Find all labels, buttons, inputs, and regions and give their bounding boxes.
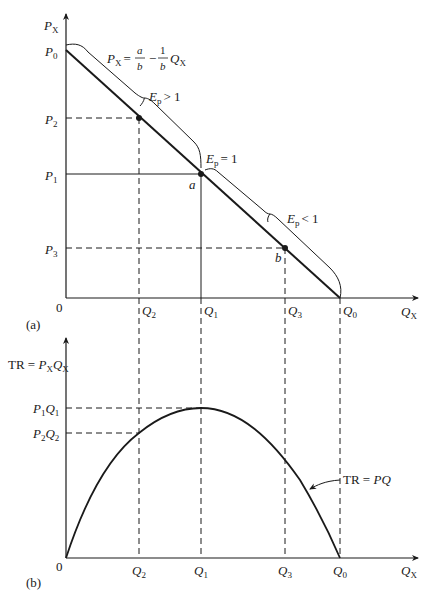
curve-pointer-arrow <box>310 480 340 489</box>
elasticity-label-unit: Ep= 1 <box>205 151 238 168</box>
elasticity-label-inelastic: Ep< 1 <box>286 211 319 228</box>
revenue-axis-label: TR = PXQX <box>8 357 69 374</box>
panel-b-label: (b) <box>26 575 41 590</box>
origin-label: 0 <box>56 300 63 315</box>
label-point-b: b <box>275 250 282 265</box>
tick-p2q2: P2Q2 <box>32 426 59 443</box>
curve-label-tr: TR = PQ <box>343 472 391 487</box>
tick-p3: P3 <box>44 242 58 259</box>
svg-text:b: b <box>137 60 143 72</box>
svg-text:1: 1 <box>160 44 166 56</box>
demand-equation: PX= a b − 1 b QX <box>106 44 186 72</box>
tick-q2-b: Q2 <box>132 563 146 580</box>
point-b <box>282 245 288 251</box>
tick-p1q1: P1Q1 <box>32 401 59 418</box>
point-a <box>198 171 204 177</box>
tick-q0: Q0 <box>343 303 357 320</box>
tick-q3: Q3 <box>288 303 302 320</box>
tick-q1-b: Q1 <box>194 563 208 580</box>
svg-text:PX=: PX= <box>106 51 131 68</box>
quantity-axis-label: QX <box>401 304 417 321</box>
total-revenue-curve <box>66 408 340 558</box>
svg-text:QX: QX <box>170 51 186 68</box>
elasticity-diagram: PX QX 0 (a) P0 P2 P1 P3 Q2 Q1 Q3 Q0 a b … <box>0 0 434 595</box>
tick-q1: Q1 <box>204 303 218 320</box>
brace-elastic-2 <box>144 98 201 168</box>
tick-q3-b: Q3 <box>278 563 292 580</box>
label-point-a: a <box>189 177 196 192</box>
svg-text:a: a <box>137 44 143 56</box>
tick-q2: Q2 <box>142 303 156 320</box>
quantity-axis-label-b: QX <box>401 563 417 580</box>
point-p2 <box>136 115 142 121</box>
tick-q0-b: Q0 <box>333 563 347 580</box>
svg-text:b: b <box>160 60 166 72</box>
elasticity-label-elastic: Ep> 1 <box>148 89 181 106</box>
brace-elastic <box>66 44 144 106</box>
panel-b: TR = PXQX P1Q1 P2Q2 TR = PQ 0 (b) QX Q2 … <box>8 338 418 590</box>
panel-a-label: (a) <box>26 317 40 332</box>
tick-p0: P0 <box>44 44 58 61</box>
tick-p1: P1 <box>44 168 57 185</box>
price-axis-label: PX <box>43 18 59 35</box>
svg-text:−: − <box>149 51 156 66</box>
origin-label-b: 0 <box>56 559 63 574</box>
brace-inelastic <box>205 169 270 222</box>
tick-p2: P2 <box>44 112 57 129</box>
